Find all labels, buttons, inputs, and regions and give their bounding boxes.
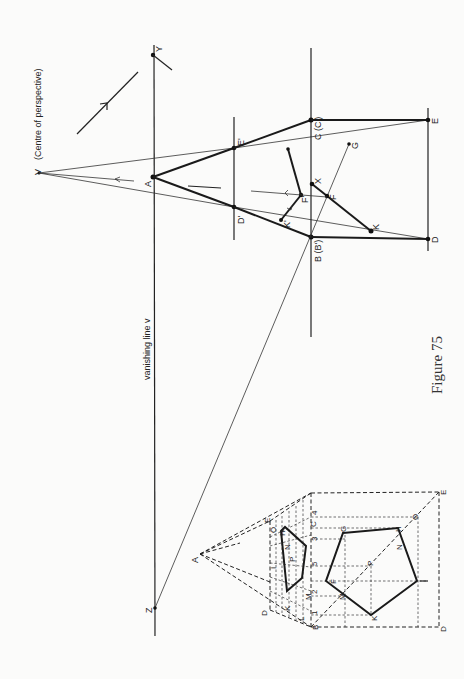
- inset-ray-a-c: [200, 493, 311, 554]
- edge-f-prime-top: [288, 149, 301, 195]
- inset-label-a: A: [190, 557, 200, 563]
- inset-label-p: P: [366, 561, 375, 566]
- perspective-diagram: vanishing line v Y V (Centre of perspect…: [0, 0, 464, 679]
- label-f: F: [328, 194, 338, 200]
- inset-label-h-small: H: [278, 530, 287, 536]
- inset-label-o-small: O: [269, 527, 278, 533]
- label-b: B (B'): [313, 240, 323, 262]
- label-y: Y: [154, 46, 164, 52]
- inset-label-h: H: [394, 526, 403, 532]
- inset-ray-a-b: [200, 554, 311, 627]
- ray-d-prime-d: [234, 207, 428, 239]
- edge-x-k: [312, 184, 371, 231]
- centre-of-perspective-label: (Centre of perspective): [33, 68, 43, 160]
- label-k-prime: K': [282, 220, 292, 228]
- inset-label-e-small: E: [263, 518, 272, 523]
- label-e: E: [430, 118, 440, 124]
- inset-label-c: C: [309, 521, 318, 527]
- inset-label-d-big: D: [439, 626, 448, 632]
- inset-label-n: N: [395, 544, 404, 550]
- inset-small-top: [270, 493, 311, 521]
- tick-1: 1: [310, 610, 319, 615]
- inset-ray-a-d: [200, 554, 270, 582]
- label-k: K: [371, 224, 381, 230]
- inset-plan-diagonal: [311, 492, 439, 627]
- inset-label-l-small: L: [297, 616, 306, 621]
- ray-v-d-prime: [39, 173, 234, 207]
- label-f-prime: F': [300, 196, 310, 203]
- tick-2: 2: [310, 589, 319, 594]
- inset-label-b: B: [311, 625, 320, 630]
- label-v: V: [33, 169, 43, 175]
- label-z: Z: [144, 607, 154, 613]
- inset-label-f: F: [329, 579, 338, 584]
- arrow-icon: [285, 190, 288, 196]
- label-x: X: [313, 178, 323, 184]
- inset-label-g: G: [339, 526, 348, 532]
- tick-4: 4: [310, 510, 319, 515]
- label-d-prime: D': [236, 216, 246, 224]
- inset-label-m: M: [338, 593, 347, 600]
- inset-label-e-big: E: [439, 490, 448, 495]
- figure-canvas: vanishing line v Y V (Centre of perspect…: [0, 0, 464, 679]
- inset-label-p-small: P: [288, 557, 297, 562]
- label-g: G: [350, 142, 360, 149]
- point-f-prime-top: [286, 147, 290, 151]
- ray-e-prime-e: [234, 120, 428, 148]
- y-direction-segment: [153, 55, 172, 70]
- edge-a-d-prime: [153, 177, 234, 207]
- label-d: D: [430, 236, 440, 243]
- line-through-f-prime: [251, 191, 327, 197]
- inset-plan-top: [311, 492, 439, 493]
- vanishing-line: [154, 45, 155, 636]
- ray-v-e-prime: [39, 148, 234, 173]
- inset-label-i-small: I: [269, 567, 278, 569]
- inset-label-d-small: D: [260, 610, 269, 616]
- edge-b-d: [311, 237, 428, 239]
- inset-plan-pentagon: [326, 528, 417, 615]
- inset-label-k-small: K: [283, 605, 292, 611]
- indicator-segment: [188, 186, 221, 188]
- inset-label-n-small: N: [283, 544, 292, 550]
- edge-e-prime-c: [234, 120, 311, 148]
- inset-label-k: K: [370, 615, 379, 621]
- edge-a-e-prime: [153, 148, 234, 177]
- figure-caption: Figure 75: [429, 336, 445, 394]
- label-a: A: [143, 181, 153, 187]
- inset-label-o: O: [411, 514, 420, 520]
- vanishing-line-label: vanishing line v: [142, 318, 152, 380]
- tick-5: 5: [310, 561, 319, 566]
- inset-ray-a-e: [200, 521, 270, 554]
- tick-3: 3: [310, 536, 319, 541]
